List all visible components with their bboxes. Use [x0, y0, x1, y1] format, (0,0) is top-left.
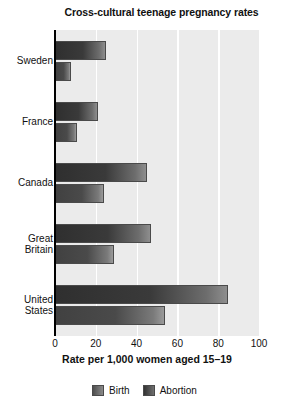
bar-abortion-great-britain [55, 224, 151, 243]
x-tick-label-100: 100 [244, 338, 274, 349]
gridline-100 [259, 30, 261, 336]
legend-label-birth: Birth [109, 385, 130, 396]
x-tick-label-0: 0 [40, 338, 70, 349]
bar-birth-great-britain [55, 245, 114, 264]
category-label-sweden: Sweden [0, 55, 53, 67]
legend-swatch-abortion [143, 385, 155, 396]
bar-birth-united-states [55, 306, 165, 325]
chart-title: Cross-cultural teenage pregnancy rates [55, 6, 268, 19]
legend-item-abortion: Abortion [143, 385, 197, 396]
y-axis-spine [54, 30, 56, 336]
chart-legend: BirthAbortion [0, 385, 289, 396]
x-tick-label-80: 80 [203, 338, 233, 349]
x-tick-label-40: 40 [122, 338, 152, 349]
bar-abortion-canada [55, 163, 147, 182]
bar-birth-france [55, 123, 77, 142]
x-axis-ticks: 020406080100 [0, 336, 289, 352]
x-axis-label: Rate per 1,000 women aged 15–19 [25, 353, 269, 365]
bar-birth-canada [55, 184, 104, 203]
bar-abortion-united-states [55, 285, 228, 304]
bar-abortion-sweden [55, 41, 106, 60]
legend-swatch-birth [92, 385, 104, 396]
x-tick-label-60: 60 [162, 338, 192, 349]
category-label-great-britain: GreatBritain [0, 233, 53, 256]
x-tick-label-20: 20 [81, 338, 111, 349]
category-label-united-states: UnitedStates [0, 294, 53, 317]
bar-abortion-france [55, 102, 98, 121]
plot-area [55, 30, 259, 336]
legend-item-birth: Birth [92, 385, 130, 396]
bar-chart: Cross-cultural teenage pregnancy rates S… [0, 0, 289, 408]
category-label-france: France [0, 116, 53, 128]
category-label-canada: Canada [0, 177, 53, 189]
bar-birth-sweden [55, 62, 71, 81]
legend-label-abortion: Abortion [160, 385, 197, 396]
